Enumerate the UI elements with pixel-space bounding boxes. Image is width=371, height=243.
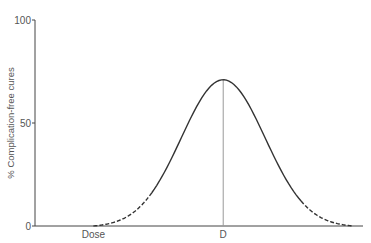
x-axis-label: Dose — [82, 229, 106, 240]
y-ticks: 050100 — [14, 15, 35, 232]
chart: 050100 % Complication-free cures Dose D — [0, 0, 371, 243]
y-tick-label: 50 — [20, 118, 32, 129]
dose-d-label: D — [220, 229, 227, 240]
curve-right-tail-dashed — [301, 201, 353, 226]
y-tick-label: 0 — [25, 221, 31, 232]
y-axis-label: % Complication-free cures — [5, 67, 16, 179]
curve-left-tail-dashed — [93, 193, 151, 226]
dose-markers: D — [220, 80, 227, 240]
curve-main-solid — [152, 80, 301, 201]
y-tick-label: 100 — [14, 15, 31, 26]
